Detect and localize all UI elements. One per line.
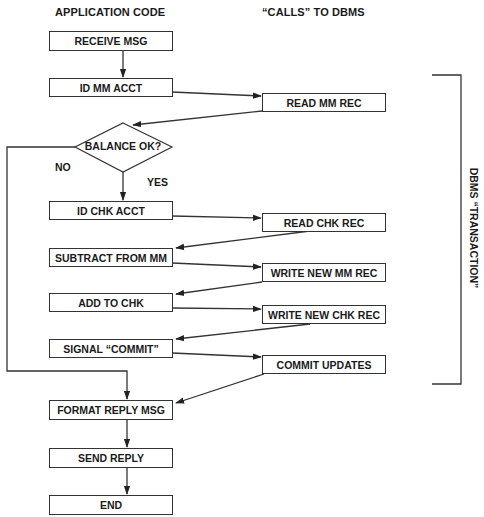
step-receive-msg: RECEIVE MSG bbox=[49, 31, 173, 51]
step-subtract-from-mm: SUBTRACT FROM MM bbox=[49, 248, 173, 267]
arrow-add-to-writechk bbox=[172, 308, 261, 309]
call-read-chk-rec: READ CHK REC bbox=[262, 213, 386, 232]
step-label: SEND REPLY bbox=[78, 452, 144, 464]
arrow-signal-to-commit bbox=[172, 353, 261, 357]
step-label: ID MM ACCT bbox=[80, 82, 143, 94]
call-commit-updates: COMMIT UPDATES bbox=[262, 355, 386, 374]
step-format-reply-msg: FORMAT REPLY MSG bbox=[49, 400, 173, 420]
call-label: READ MM REC bbox=[286, 97, 361, 109]
arrow-idmm-to-readmm bbox=[172, 92, 261, 96]
step-end: END bbox=[49, 495, 173, 515]
step-send-reply: SEND REPLY bbox=[49, 448, 173, 468]
arrow-readmm-to-decision bbox=[133, 111, 262, 125]
arrow-no-branch bbox=[7, 147, 127, 399]
decision-balance-ok: BALANCE OK? bbox=[80, 140, 166, 152]
arrow-idchk-to-readchk bbox=[172, 216, 261, 218]
step-label: ADD TO CHK bbox=[78, 297, 144, 309]
arrow-writechk-to-signal bbox=[176, 324, 310, 339]
step-id-chk-acct: ID CHK ACCT bbox=[49, 201, 173, 220]
step-label: FORMAT REPLY MSG bbox=[57, 404, 165, 416]
arrow-writemm-to-add bbox=[176, 282, 262, 294]
label-dbms-transaction: DBMS “TRANSACTION” bbox=[468, 158, 480, 298]
step-id-mm-acct: ID MM ACCT bbox=[49, 78, 173, 97]
transaction-bracket bbox=[432, 75, 461, 384]
step-signal-commit: SIGNAL “COMMIT” bbox=[49, 339, 173, 358]
call-write-new-mm-rec: WRITE NEW MM REC bbox=[262, 263, 386, 282]
arrow-subtract-to-writemm bbox=[172, 263, 261, 267]
step-label: ID CHK ACCT bbox=[77, 205, 145, 217]
call-label: READ CHK REC bbox=[284, 217, 365, 229]
call-read-mm-rec: READ MM REC bbox=[262, 93, 386, 112]
arrow-commit-to-format bbox=[176, 374, 264, 403]
step-add-to-chk: ADD TO CHK bbox=[49, 293, 173, 312]
header-application-code: APPLICATION CODE bbox=[55, 6, 165, 18]
branch-label-yes: YES bbox=[147, 176, 168, 188]
header-calls-to-dbms: “CALLS” TO DBMS bbox=[262, 6, 365, 18]
call-label: WRITE NEW MM REC bbox=[271, 267, 378, 279]
step-label: SUBTRACT FROM MM bbox=[55, 252, 167, 264]
call-label: COMMIT UPDATES bbox=[277, 359, 372, 371]
call-label: WRITE NEW CHK REC bbox=[268, 309, 380, 321]
branch-label-no: NO bbox=[55, 161, 71, 173]
step-label: SIGNAL “COMMIT” bbox=[63, 343, 158, 355]
arrow-readchk-to-subtract bbox=[176, 231, 310, 248]
step-label: END bbox=[100, 499, 122, 511]
step-label: RECEIVE MSG bbox=[75, 35, 148, 47]
call-write-new-chk-rec: WRITE NEW CHK REC bbox=[262, 305, 386, 324]
